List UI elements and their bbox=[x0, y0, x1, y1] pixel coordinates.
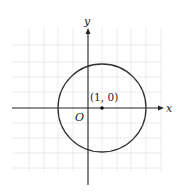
x-axis-label: x bbox=[166, 102, 173, 115]
center-point bbox=[100, 106, 104, 110]
origin-label: O bbox=[75, 111, 84, 124]
center-label: (1, 0) bbox=[90, 91, 118, 103]
y-axis bbox=[86, 28, 91, 185]
y-axis-arrow-icon bbox=[86, 28, 91, 34]
y-axis-label: y bbox=[83, 15, 91, 28]
grid bbox=[12, 27, 162, 172]
coordinate-diagram: x y O (1, 0) bbox=[0, 0, 180, 193]
